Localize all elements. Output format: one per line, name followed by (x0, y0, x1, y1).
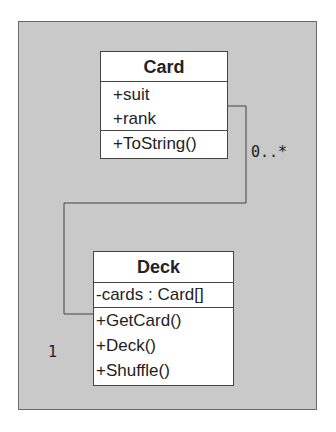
class-card-attributes: +suit +rank (101, 82, 227, 131)
class-card-name: Card (101, 52, 227, 82)
attribute-rank: +rank (113, 107, 227, 131)
class-deck-attributes: -cards : Card[] (94, 283, 233, 308)
class-deck-operations: +GetCard() +Deck() +Shuffle() (94, 308, 233, 383)
class-card[interactable]: Card +suit +rank +ToString() (100, 51, 228, 159)
multiplicity-deck: 1 (48, 343, 57, 361)
class-card-operations: +ToString() (101, 131, 227, 158)
operation-deck: +Deck() (96, 333, 233, 358)
attribute-cards: -cards : Card[] (96, 283, 233, 307)
operation-getcard: +GetCard() (96, 308, 233, 333)
attribute-suit: +suit (113, 83, 227, 107)
operation-shuffle: +Shuffle() (96, 358, 233, 383)
operation-tostring: +ToString() (113, 132, 227, 156)
class-deck-name: Deck (94, 252, 233, 283)
class-deck[interactable]: Deck -cards : Card[] +GetCard() +Deck() … (93, 251, 234, 386)
multiplicity-card: 0..* (251, 143, 287, 161)
